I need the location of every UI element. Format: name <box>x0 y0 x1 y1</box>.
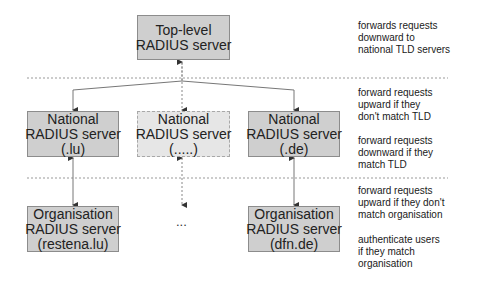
node-label: Organisation <box>254 207 333 222</box>
node-national-generic: National RADIUS server (.....) <box>137 111 230 157</box>
edge-top-lu <box>73 81 182 110</box>
node-label: Organisation <box>33 207 112 222</box>
node-label: National <box>47 112 98 127</box>
node-label: RADIUS server <box>136 38 232 53</box>
node-org-restena: Organisation RADIUS server (restena.lu) <box>27 206 119 252</box>
node-label: RADIUS server <box>25 222 121 237</box>
node-label: (dfn.de) <box>270 237 318 252</box>
node-label: RADIUS server <box>136 127 232 142</box>
node-label: National <box>268 112 319 127</box>
node-national-lu: National RADIUS server (.lu) <box>27 111 119 157</box>
node-label: RADIUS server <box>25 127 121 142</box>
node-label: RADIUS server <box>246 127 342 142</box>
node-label: Top-level <box>155 23 211 38</box>
node-label: (.de) <box>280 142 309 157</box>
note-national-up: forward requests upward if they don't ma… <box>358 87 432 123</box>
note-org-up: forward requests upward if they don't ma… <box>358 185 444 221</box>
node-national-de: National RADIUS server (.de) <box>248 111 340 157</box>
node-label: RADIUS server <box>246 222 342 237</box>
node-org-ellipsis: ... <box>176 214 187 229</box>
node-label: National <box>158 112 209 127</box>
node-label: (.lu) <box>61 142 85 157</box>
note-national-down: forward requests downward if they match … <box>358 135 433 171</box>
node-top-level: Top-level RADIUS server <box>137 15 230 60</box>
node-label: (restena.lu) <box>38 237 109 252</box>
node-label: (.....) <box>169 142 198 157</box>
note-org-down: authenticate users if they match organis… <box>358 234 440 270</box>
node-org-dfn: Organisation RADIUS server (dfn.de) <box>248 206 340 252</box>
note-top-level: forwards requests downward to national T… <box>358 20 450 56</box>
edge-top-de <box>182 81 294 110</box>
